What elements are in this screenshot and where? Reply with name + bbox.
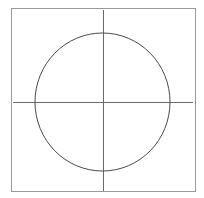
circle-axes-diagram (0, 0, 204, 198)
